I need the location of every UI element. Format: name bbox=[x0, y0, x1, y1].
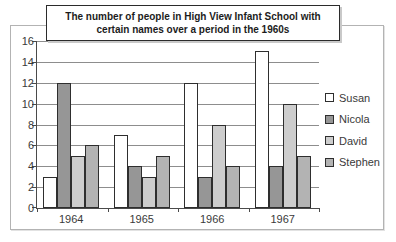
bar-susan-1966 bbox=[184, 83, 198, 208]
y-tick-label-4: 4 bbox=[28, 160, 34, 172]
chart-frame: 0246810121416 1964196519661967 SusanNico… bbox=[10, 25, 384, 230]
y-tick-label-16: 16 bbox=[22, 35, 34, 47]
x-label-1964: 1964 bbox=[36, 213, 107, 225]
x-label-1967: 1967 bbox=[248, 213, 319, 225]
bar-stephen-1965 bbox=[156, 156, 170, 208]
x-tick-3 bbox=[249, 208, 250, 212]
gridline-6 bbox=[37, 145, 319, 146]
legend-swatch-david bbox=[325, 136, 334, 145]
bar-stephen-1964 bbox=[85, 145, 99, 208]
bar-david-1964 bbox=[71, 156, 85, 208]
y-tick-label-8: 8 bbox=[28, 119, 34, 131]
bar-nicola-1964 bbox=[57, 83, 71, 208]
gridline-12 bbox=[37, 83, 319, 84]
legend-label-susan: Susan bbox=[339, 92, 370, 104]
y-axis: 0246810121416 bbox=[13, 41, 34, 208]
bar-david-1966 bbox=[212, 125, 226, 209]
legend-item-nicola: Nicola bbox=[325, 109, 380, 131]
bar-susan-1965 bbox=[114, 135, 128, 208]
bar-stephen-1966 bbox=[226, 166, 240, 208]
bar-susan-1967 bbox=[255, 51, 269, 208]
gridline-8 bbox=[37, 125, 319, 126]
y-tick-label-6: 6 bbox=[28, 139, 34, 151]
y-tick-label-12: 12 bbox=[22, 77, 34, 89]
legend-item-stephen: Stephen bbox=[325, 152, 380, 174]
gridline-14 bbox=[37, 62, 319, 63]
x-tick-0 bbox=[37, 208, 38, 212]
legend: SusanNicolaDavidStephen bbox=[325, 87, 380, 173]
legend-swatch-stephen bbox=[325, 158, 334, 167]
x-label-1965: 1965 bbox=[107, 213, 178, 225]
bar-stephen-1967 bbox=[297, 156, 311, 208]
chart-title: The number of people in High View Infant… bbox=[46, 5, 340, 41]
x-axis: 1964196519661967 bbox=[36, 213, 318, 227]
x-label-1966: 1966 bbox=[177, 213, 248, 225]
legend-label-nicola: Nicola bbox=[339, 113, 370, 125]
chart-title-line2: certain names over a period in the 1960s bbox=[49, 23, 337, 36]
legend-item-david: David bbox=[325, 130, 380, 152]
legend-swatch-susan bbox=[325, 93, 334, 102]
bar-david-1967 bbox=[283, 104, 297, 208]
plot-area bbox=[36, 41, 319, 209]
bar-nicola-1966 bbox=[198, 177, 212, 208]
bar-david-1965 bbox=[142, 177, 156, 208]
bar-nicola-1965 bbox=[128, 166, 142, 208]
gridline-16 bbox=[37, 41, 319, 42]
y-tick-label-14: 14 bbox=[22, 56, 34, 68]
x-tick-2 bbox=[178, 208, 179, 212]
gridline-10 bbox=[37, 104, 319, 105]
x-tick-end bbox=[319, 208, 320, 212]
legend-label-stephen: Stephen bbox=[339, 156, 380, 168]
bar-nicola-1967 bbox=[269, 166, 283, 208]
y-tick-label-10: 10 bbox=[22, 98, 34, 110]
y-tick-label-0: 0 bbox=[28, 202, 34, 214]
legend-item-susan: Susan bbox=[325, 87, 380, 109]
x-tick-1 bbox=[108, 208, 109, 212]
y-tick-label-2: 2 bbox=[28, 181, 34, 193]
chart-image: 0246810121416 1964196519661967 SusanNico… bbox=[0, 0, 396, 242]
legend-swatch-nicola bbox=[325, 115, 334, 124]
bar-susan-1964 bbox=[43, 177, 57, 208]
chart-title-line1: The number of people in High View Infant… bbox=[49, 10, 337, 23]
legend-label-david: David bbox=[339, 135, 367, 147]
